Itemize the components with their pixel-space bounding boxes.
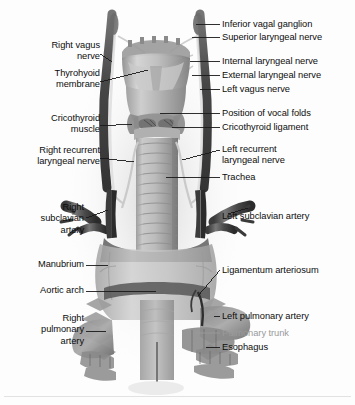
label-left-pulmonary-artery: Left pulmonary artery — [222, 311, 309, 322]
label-left-recurrent-laryngeal-nerve: Left recurrent laryngeal nerve — [222, 144, 285, 167]
label-cricothyroid-ligament: Cricothyroid ligament — [222, 122, 308, 133]
label-superior-laryngeal-nerve: Superior laryngeal nerve — [222, 32, 322, 43]
label-right-pulmonary-artery: Right pulmonary artery — [8, 313, 84, 347]
label-manubrium: Manubrium — [8, 259, 84, 270]
label-inferior-vagal-ganglion: Inferior vagal ganglion — [222, 19, 312, 30]
label-external-laryngeal-nerve: External laryngeal nerve — [222, 70, 321, 81]
figure-canvas: Right vagus nerve Thyrohyoid membrane Cr… — [0, 0, 355, 405]
label-esophagus: Esophagus — [222, 342, 268, 353]
bottom-divider — [4, 396, 351, 397]
label-right-recurrent-laryngeal-nerve: Right recurrent laryngeal nerve — [2, 145, 100, 168]
label-left-vagus-nerve: Left vagus nerve — [222, 84, 290, 95]
label-ligamentum-arteriosum: Ligamentum arteriosum — [222, 265, 319, 276]
label-trachea: Trachea — [222, 172, 255, 183]
label-left-subclavian-artery: Left subclavian artery — [222, 211, 309, 222]
label-cricothyroid-muscle: Cricothyroid muscle — [8, 113, 100, 136]
label-internal-laryngeal-nerve: Internal laryngeal nerve — [222, 56, 318, 67]
label-pulmonary-trunk: Pulmonary trunk — [222, 328, 289, 339]
label-position-of-vocal-folds: Position of vocal folds — [222, 108, 311, 119]
label-right-subclavian-artery: Right subclavian artery — [8, 202, 84, 236]
label-aortic-arch: Aortic arch — [8, 285, 84, 296]
label-right-vagus-nerve: Right vagus nerve — [8, 40, 100, 63]
label-thyrohyoid-membrane: Thyrohyoid membrane — [8, 68, 100, 91]
